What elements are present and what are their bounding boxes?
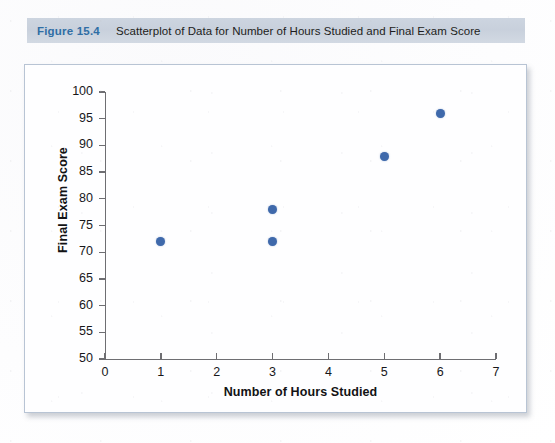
x-tick-label: 0: [93, 365, 117, 379]
y-tick-mark: [99, 278, 105, 279]
x-axis-line: [105, 359, 496, 360]
x-tick-label: 2: [205, 365, 229, 379]
y-tick-mark: [99, 118, 105, 119]
x-tick-mark: [384, 353, 385, 359]
y-tick-mark: [99, 145, 105, 146]
x-tick-mark: [495, 353, 496, 359]
x-tick-label: 5: [372, 365, 396, 379]
y-tick-label: 55: [61, 324, 93, 338]
y-axis-line: [105, 92, 106, 360]
chart-frame: 50556065707580859095100 01234567 Number …: [24, 64, 527, 413]
y-tick-label: 50: [61, 351, 93, 365]
data-point: [380, 152, 389, 161]
x-tick-mark: [216, 353, 217, 359]
x-tick-label: 3: [261, 365, 285, 379]
y-tick-mark: [99, 332, 105, 333]
y-tick-mark: [99, 198, 105, 199]
x-tick-mark: [160, 353, 161, 359]
y-tick-mark: [99, 171, 105, 172]
figure-number-label: Figure 15.4: [37, 25, 100, 37]
y-tick-label: 100: [61, 84, 93, 98]
x-axis-title: Number of Hours Studied: [105, 385, 496, 399]
x-tick-mark: [272, 353, 273, 359]
y-tick-mark: [99, 252, 105, 253]
figure-caption-text: Scatterplot of Data for Number of Hours …: [116, 25, 481, 37]
x-tick-label: 7: [484, 365, 508, 379]
data-point: [436, 109, 445, 118]
x-tick-label: 6: [428, 365, 452, 379]
y-axis-title: Final Exam Score: [56, 100, 70, 300]
x-tick-mark: [104, 353, 105, 359]
data-point: [268, 237, 277, 246]
y-tick-mark: [99, 91, 105, 92]
y-tick-mark: [99, 305, 105, 306]
data-point: [156, 237, 165, 246]
data-point: [268, 205, 277, 214]
x-tick-label: 4: [316, 365, 340, 379]
x-tick-mark: [439, 353, 440, 359]
y-tick-mark: [99, 225, 105, 226]
x-tick-label: 1: [149, 365, 173, 379]
x-tick-mark: [328, 353, 329, 359]
scatter-plot: 50556065707580859095100 01234567 Number …: [25, 65, 526, 412]
figure-caption-bar: Figure 15.4 Scatterplot of Data for Numb…: [27, 18, 525, 43]
